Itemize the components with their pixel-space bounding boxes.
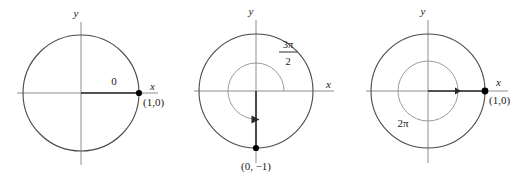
angle-label: 0 <box>111 75 117 87</box>
point-label: (1,0) <box>143 96 164 109</box>
angle-label: 2π <box>397 117 409 129</box>
terminal-point-dot <box>136 90 142 96</box>
x-axis-label: x <box>149 80 155 92</box>
x-axis-label: x <box>495 76 501 88</box>
diagram-angle-three-pi-over-two: y x 3π 2 (0, −1) <box>176 0 352 177</box>
terminal-point-dot <box>253 145 259 151</box>
unit-circle-figure-set: y x 0 (1,0) y x 3π 2 (0, −1) <box>0 0 528 177</box>
y-axis-label: y <box>73 7 79 19</box>
diagram-angle-zero: y x 0 (1,0) <box>0 0 176 177</box>
angle-label-denominator: 2 <box>285 56 290 67</box>
x-axis-label: x <box>325 78 331 90</box>
angle-label-numerator: 3π <box>283 39 294 50</box>
y-axis-label: y <box>248 5 254 17</box>
angle-label-fraction: 3π 2 <box>279 39 297 67</box>
diagram-angle-two-pi: y x 2π (1,0) <box>352 0 528 177</box>
y-axis-label: y <box>420 5 426 17</box>
point-label: (0, −1) <box>241 160 271 173</box>
point-label: (1,0) <box>489 94 510 107</box>
terminal-point-dot <box>482 88 489 95</box>
